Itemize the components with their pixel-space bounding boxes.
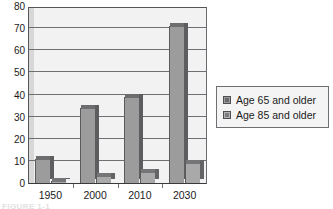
plot-area bbox=[28, 7, 207, 184]
x-axis-tick bbox=[162, 184, 163, 188]
legend-item-label: Age 85 and older bbox=[236, 109, 316, 121]
y-axis-tick-label: 0 bbox=[3, 179, 25, 189]
y-axis-tick-label: 30 bbox=[3, 113, 25, 123]
x-axis-tick-label: 2030 bbox=[165, 189, 205, 201]
y-axis-tick-label: 80 bbox=[3, 2, 25, 12]
y-axis: 01020304050607080 bbox=[0, 0, 25, 209]
y-axis-tick-label: 20 bbox=[3, 135, 25, 145]
y-axis-tick-label: 50 bbox=[3, 68, 25, 78]
bar-top-face bbox=[170, 23, 184, 27]
bar-top-face bbox=[141, 169, 155, 173]
legend-swatch-dark bbox=[223, 96, 231, 104]
bar-side-face bbox=[155, 169, 159, 179]
bar-group bbox=[29, 8, 74, 183]
bar-top-face bbox=[52, 178, 66, 182]
bar-side-face bbox=[184, 23, 188, 179]
bar-top-face bbox=[81, 105, 95, 109]
bar-side-face bbox=[200, 160, 204, 179]
bar-side-face bbox=[111, 173, 115, 179]
bar bbox=[185, 163, 200, 183]
x-axis-tick bbox=[73, 184, 74, 188]
bar-top-face bbox=[36, 156, 50, 160]
bar-side-face bbox=[66, 178, 70, 179]
bar-group bbox=[74, 8, 119, 183]
x-axis-tick bbox=[118, 184, 119, 188]
bar bbox=[35, 159, 50, 183]
bar-chart-figure: 01020304050607080 1950200020102030 Age 6… bbox=[0, 0, 333, 209]
bar-side-face bbox=[95, 105, 99, 179]
legend-item: Age 85 and older bbox=[223, 107, 323, 122]
legend-item-label: Age 65 and older bbox=[236, 94, 316, 106]
bar bbox=[51, 181, 66, 183]
bar-group bbox=[119, 8, 164, 183]
y-axis-tick-label: 60 bbox=[3, 46, 25, 56]
bar bbox=[80, 108, 95, 183]
figure-caption: FIGURE 1-1 bbox=[2, 202, 50, 209]
bar-top-face bbox=[97, 173, 111, 177]
bar-top-face bbox=[125, 94, 139, 98]
bar bbox=[140, 172, 155, 183]
bar-group bbox=[163, 8, 208, 183]
bar bbox=[96, 176, 111, 183]
y-axis-tick-label: 10 bbox=[3, 157, 25, 167]
bar bbox=[169, 26, 184, 183]
bar-side-face bbox=[50, 156, 54, 179]
bar-side-face bbox=[139, 94, 143, 179]
x-axis-tick-label: 2010 bbox=[120, 189, 160, 201]
bars-layer bbox=[29, 8, 206, 183]
legend-swatch-light bbox=[223, 111, 231, 119]
x-axis-labels: 1950200020102030 bbox=[28, 189, 207, 203]
y-axis-tick-label: 70 bbox=[3, 24, 25, 34]
bar-top-face bbox=[186, 160, 200, 164]
chart-legend: Age 65 and olderAge 85 and older bbox=[216, 86, 329, 128]
x-axis-tick-label: 2000 bbox=[75, 189, 115, 201]
x-axis-tick-label: 1950 bbox=[30, 189, 70, 201]
y-axis-tick-label: 40 bbox=[3, 91, 25, 101]
legend-item: Age 65 and older bbox=[223, 92, 323, 107]
bar bbox=[124, 97, 139, 183]
